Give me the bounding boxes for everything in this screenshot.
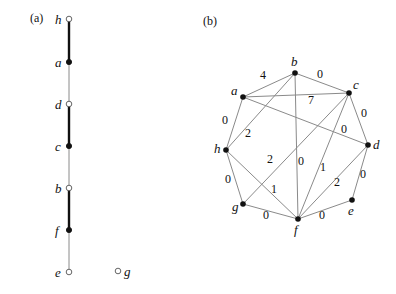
edge-f-e [298, 200, 352, 219]
node-g [115, 268, 121, 274]
node-f [66, 227, 71, 232]
node-d [365, 142, 371, 148]
edge-weight-a-d: 0 [341, 122, 347, 136]
node-c [66, 143, 71, 148]
edge-weight-h-f: 1 [271, 182, 277, 196]
edge-weight-d-e: 0 [360, 167, 366, 181]
edge-weight-a-h: 0 [222, 113, 228, 127]
edge-weight-c-g: 2 [267, 152, 273, 166]
node-e [66, 269, 72, 275]
edge-a-d [243, 97, 368, 145]
node-h [223, 147, 229, 153]
node-e [349, 197, 355, 203]
edge-weight-h-b: 2 [245, 126, 251, 140]
node-label-c: c [353, 77, 359, 92]
node-h [66, 16, 72, 22]
node-label-h: h [214, 141, 221, 156]
edge-weight-h-g: 0 [225, 172, 231, 186]
edge-weight-b-c: 0 [317, 67, 323, 81]
node-label-c: c [55, 139, 61, 154]
node-c [346, 90, 352, 96]
node-b [292, 70, 298, 76]
panel-b-weighted-graph: (b)4070200021010200bachdgef [203, 14, 380, 237]
edge-weight-a-c: 7 [308, 93, 314, 107]
node-f [295, 216, 301, 222]
edge-c-f [298, 93, 349, 219]
edge-weight-b-f: 0 [298, 154, 304, 168]
node-label-g: g [124, 264, 131, 279]
node-label-d: d [55, 97, 62, 112]
edge-weight-d-f: 2 [334, 175, 340, 189]
node-label-e: e [348, 203, 354, 218]
node-a [66, 59, 71, 64]
node-label-b: b [55, 181, 62, 196]
edge-a-c [243, 93, 349, 97]
edge-weight-c-d: 0 [361, 106, 367, 120]
node-label-f: f [294, 222, 300, 237]
graph-figure: (a)hadcbfeg (b)4070200021010200bachdgef [0, 0, 396, 294]
edge-weight-g-f: 0 [263, 208, 269, 222]
panel-b-label: (b) [203, 14, 217, 28]
node-b [66, 185, 72, 191]
edge-a-h [226, 97, 243, 150]
node-label-d: d [373, 137, 380, 152]
node-g [240, 201, 246, 207]
panel-a-label: (a) [30, 11, 43, 25]
node-label-a: a [231, 83, 238, 98]
node-label-f: f [55, 223, 61, 238]
node-d [66, 101, 72, 107]
node-label-e: e [55, 265, 61, 280]
edge-weight-a-b: 4 [260, 68, 266, 82]
edge-weight-c-f: 1 [320, 160, 326, 174]
node-label-g: g [232, 199, 239, 214]
edge-weight-f-e: 0 [319, 208, 325, 222]
node-a [240, 94, 246, 100]
node-label-h: h [55, 12, 62, 27]
node-label-b: b [291, 54, 298, 69]
node-label-a: a [55, 55, 62, 70]
panel-a-path-graph: (a)hadcbfeg [30, 11, 131, 280]
edge-a-b [243, 73, 295, 97]
